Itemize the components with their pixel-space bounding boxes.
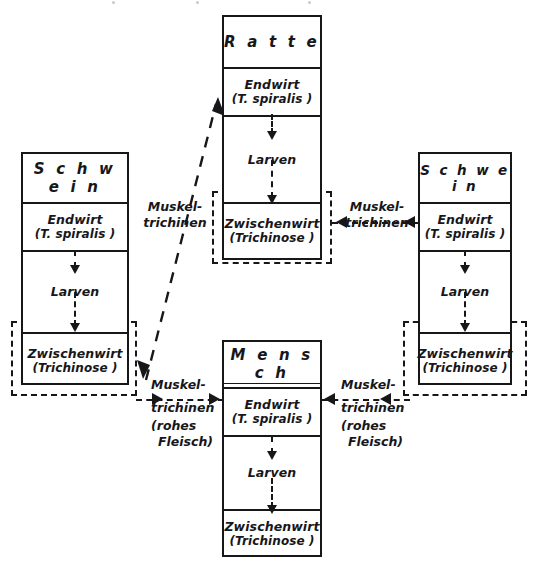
host-title-text: M e n s c h [224, 346, 320, 384]
stage-sublabel-endwirt: (T. spiralis ) [232, 412, 313, 426]
stage-cell-endwirt-ratte: Endwirt (T. spiralis ) [224, 67, 320, 115]
edge-label-schwein-left-to-mensch: Muskel- trichinen (rohes Fleisch) [151, 377, 223, 449]
edge-label-line: Fleisch) [348, 434, 415, 450]
stage-sublabel-endwirt: (T. spiralis ) [425, 227, 506, 241]
edge-diagonal-line [146, 104, 216, 380]
stage-cell-endwirt-schwein-right: Endwirt (T. spiralis ) [420, 202, 510, 250]
stage-label-endwirt: Endwirt [47, 213, 102, 227]
stage-label-zwischenwirt: Zwischenwirt [224, 217, 319, 231]
edge-label-line: Fleisch) [158, 434, 223, 450]
stage-label-zwischenwirt: Zwischenwirt [417, 347, 512, 361]
stage-sublabel-zwischenwirt: (Trichinose ) [32, 361, 117, 375]
stage-cell-zwischenwirt-mensch: Zwischenwirt (Trichinose ) [224, 509, 320, 557]
internal-arrow-larven-zwischenwirt-schwein-right [464, 292, 466, 326]
internal-arrowhead-endwirt-larven-schwein-right [460, 265, 470, 274]
edge-diagonal-arrowhead-down [137, 360, 150, 379]
host-title-schwein-right: S c h w e i n [420, 154, 510, 202]
stage-label-zwischenwirt: Zwischenwirt [224, 520, 319, 534]
edge-label-schwein-right-to-mensch: Muskel- trichinen (rohes Fleisch) [341, 377, 415, 449]
stage-cell-zwischenwirt-schwein-left: Zwischenwirt (Trichinose ) [23, 332, 127, 387]
internal-arrowhead-larven-zwischenwirt-mensch [267, 505, 277, 514]
internal-arrowhead-larven-zwischenwirt-schwein-right [460, 323, 470, 332]
edge-label-line: (rohes [151, 418, 223, 434]
host-title-schwein-left: S c h w e i n [23, 154, 127, 202]
edge-label-line: Muskel- [340, 199, 414, 215]
stage-sublabel-zwischenwirt: (Trichinose ) [422, 361, 507, 375]
stage-label-endwirt: Endwirt [244, 398, 299, 412]
edge-label-schwein-left-to-ratte: Muskel- trichinen [138, 199, 212, 230]
internal-arrowhead-endwirt-larven-ratte [267, 131, 277, 140]
edge-label-line: trichinen [341, 400, 415, 416]
edge-label-line: Muskel- [138, 199, 212, 215]
stage-cell-endwirt-schwein-left: Endwirt (T. spiralis ) [23, 202, 127, 250]
stage-sublabel-zwischenwirt: (Trichinose ) [229, 231, 314, 245]
diagram-canvas: R a t t e Endwirt (T. spiralis ) Larven … [0, 0, 536, 565]
host-title-mensch: M e n s c h [224, 342, 320, 387]
internal-arrow-larven-zwischenwirt-ratte [271, 160, 273, 198]
stage-cell-endwirt-mensch: Endwirt (T. spiralis ) [224, 387, 320, 435]
edge-label-line: trichinen [340, 215, 414, 231]
host-title-ratte: R a t t e [224, 17, 320, 67]
host-title-text: R a t t e [224, 33, 320, 51]
stage-sublabel-zwischenwirt: (Trichinose ) [229, 534, 314, 548]
stage-sublabel-endwirt: (T. spiralis ) [232, 92, 313, 106]
edge-label-schwein-right-to-ratte: Muskel- trichinen [340, 199, 414, 230]
stage-cell-zwischenwirt-ratte: Zwischenwirt (Trichinose ) [224, 202, 320, 257]
stage-label-endwirt: Endwirt [437, 213, 492, 227]
internal-arrow-larven-zwischenwirt-schwein-left [74, 292, 76, 326]
internal-arrowhead-larven-zwischenwirt-schwein-left [70, 323, 80, 332]
edge-label-line: trichinen [138, 215, 212, 231]
edge-label-line: trichinen [151, 400, 223, 416]
internal-arrowhead-endwirt-larven-mensch [267, 451, 277, 460]
edge-label-line: (rohes [341, 418, 415, 434]
internal-arrowhead-larven-zwischenwirt-ratte [267, 195, 277, 204]
stage-label-endwirt: Endwirt [244, 78, 299, 92]
internal-arrowhead-endwirt-larven-schwein-left [70, 265, 80, 274]
scan-artifact [0, 0, 536, 4]
internal-arrow-larven-zwischenwirt-mensch [271, 478, 273, 508]
host-title-text: S c h w e i n [23, 160, 127, 196]
edge-arrowhead-schwein-right-to-mensch-inner [324, 393, 335, 405]
edge-label-line: Muskel- [341, 377, 415, 393]
edge-label-line: Muskel- [151, 377, 223, 393]
host-title-text: S c h w e i n [420, 162, 510, 194]
stage-sublabel-endwirt: (T. spiralis ) [35, 227, 116, 241]
stage-label-zwischenwirt: Zwischenwirt [27, 347, 122, 361]
stage-cell-zwischenwirt-schwein-right: Zwischenwirt (Trichinose ) [420, 332, 510, 387]
